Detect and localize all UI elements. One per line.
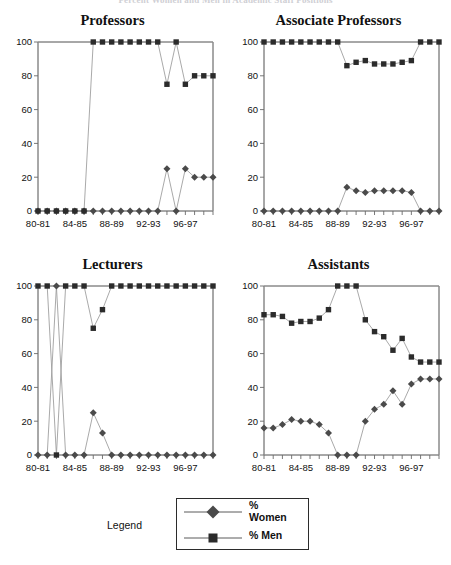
data-point bbox=[335, 39, 340, 44]
chart-svg: 02040608010080-8184-8588-8992-9396-97 bbox=[12, 280, 217, 485]
data-point bbox=[200, 452, 207, 459]
data-point bbox=[127, 283, 132, 288]
data-point bbox=[363, 317, 368, 322]
series-markers bbox=[35, 283, 217, 459]
y-axis-tick-label: 0 bbox=[253, 205, 258, 216]
data-point bbox=[81, 208, 86, 213]
data-point bbox=[297, 418, 304, 425]
y-axis-tick-label: 60 bbox=[21, 348, 32, 359]
data-point bbox=[353, 452, 360, 459]
data-point bbox=[316, 208, 323, 215]
x-axis-tick-label: 84-85 bbox=[63, 218, 87, 229]
y-axis-tick-label: 20 bbox=[21, 416, 32, 427]
data-point bbox=[307, 208, 314, 215]
series-markers bbox=[261, 184, 443, 215]
chart-panel-grid: Professors 02040608010080-8184-8588-8992… bbox=[0, 8, 451, 495]
data-point bbox=[372, 61, 377, 66]
data-point bbox=[271, 39, 276, 44]
data-point bbox=[62, 452, 69, 459]
panel-title: Professors bbox=[0, 12, 225, 29]
data-point bbox=[118, 39, 123, 44]
data-point bbox=[279, 421, 286, 428]
data-point bbox=[45, 208, 50, 213]
data-point bbox=[63, 208, 68, 213]
y-axis-tick-label: 60 bbox=[247, 348, 258, 359]
data-point bbox=[399, 336, 404, 341]
data-point bbox=[261, 39, 266, 44]
data-point bbox=[192, 283, 197, 288]
data-point bbox=[146, 283, 151, 288]
legend-swatch-square-icon bbox=[182, 525, 244, 551]
data-point bbox=[317, 315, 322, 320]
y-axis-tick-label: 100 bbox=[16, 36, 32, 47]
data-point bbox=[270, 424, 277, 431]
plot-area: 02040608010080-8184-8588-8992-9396-97 bbox=[12, 36, 217, 241]
data-point bbox=[426, 208, 433, 215]
data-point bbox=[297, 208, 304, 215]
legend-item-men: % Men bbox=[177, 525, 310, 551]
y-axis-tick-label: 0 bbox=[27, 449, 32, 460]
x-axis-tick-label: 84-85 bbox=[63, 462, 87, 473]
data-point bbox=[109, 39, 114, 44]
data-point bbox=[154, 208, 161, 215]
data-point bbox=[108, 208, 115, 215]
data-point bbox=[317, 39, 322, 44]
legend-box: %Women % Men bbox=[176, 498, 309, 550]
legend-item-women: %Women bbox=[177, 499, 310, 525]
data-point bbox=[137, 39, 142, 44]
plot-area: 02040608010080-8184-8588-8992-9396-97 bbox=[12, 280, 217, 485]
data-point bbox=[408, 381, 415, 388]
y-axis-tick-label: 40 bbox=[247, 138, 258, 149]
data-point bbox=[307, 39, 312, 44]
data-point bbox=[45, 283, 50, 288]
figure-top-title: Percent Women and Men in Academic Staff … bbox=[0, 0, 451, 4]
series-markers bbox=[261, 283, 441, 364]
data-point bbox=[210, 174, 217, 181]
data-point bbox=[210, 73, 215, 78]
series-markers bbox=[261, 375, 443, 458]
data-point bbox=[427, 359, 432, 364]
y-axis-tick-label: 40 bbox=[247, 382, 258, 393]
data-point bbox=[173, 452, 180, 459]
data-point bbox=[408, 189, 415, 196]
y-axis-tick-label: 0 bbox=[27, 205, 32, 216]
y-axis-tick-label: 60 bbox=[247, 104, 258, 115]
y-axis-tick-label: 100 bbox=[16, 280, 32, 291]
y-axis-tick-label: 20 bbox=[247, 172, 258, 183]
chart-panel-assistants: Assistants 02040608010080-8184-8588-8992… bbox=[226, 252, 451, 495]
data-point bbox=[280, 39, 285, 44]
data-point bbox=[427, 39, 432, 44]
x-axis-tick-label: 92-93 bbox=[136, 218, 160, 229]
data-point bbox=[289, 39, 294, 44]
data-point bbox=[100, 39, 105, 44]
data-point bbox=[390, 348, 395, 353]
data-point bbox=[389, 387, 396, 394]
data-point bbox=[90, 208, 97, 215]
data-point bbox=[127, 208, 134, 215]
x-axis-tick-label: 92-93 bbox=[136, 462, 160, 473]
series-markers bbox=[35, 283, 215, 457]
data-point bbox=[127, 39, 132, 44]
data-point bbox=[344, 63, 349, 68]
data-point bbox=[108, 452, 115, 459]
data-point bbox=[44, 452, 51, 459]
data-point bbox=[426, 375, 433, 382]
data-point bbox=[298, 39, 303, 44]
data-point bbox=[371, 187, 378, 194]
data-point bbox=[279, 208, 286, 215]
data-point bbox=[163, 165, 170, 172]
data-point bbox=[343, 184, 350, 191]
data-point bbox=[183, 283, 188, 288]
data-point bbox=[137, 283, 142, 288]
y-axis-tick-label: 100 bbox=[242, 36, 258, 47]
data-point bbox=[63, 283, 68, 288]
data-point bbox=[436, 375, 443, 382]
data-point bbox=[146, 39, 151, 44]
data-point bbox=[288, 416, 295, 423]
x-axis-tick-label: 88-89 bbox=[100, 462, 124, 473]
x-axis-tick-label: 96-97 bbox=[173, 218, 197, 229]
data-point bbox=[145, 452, 152, 459]
data-point bbox=[117, 208, 124, 215]
x-axis-tick-label: 92-93 bbox=[362, 218, 386, 229]
x-axis-tick-label: 88-89 bbox=[326, 218, 350, 229]
